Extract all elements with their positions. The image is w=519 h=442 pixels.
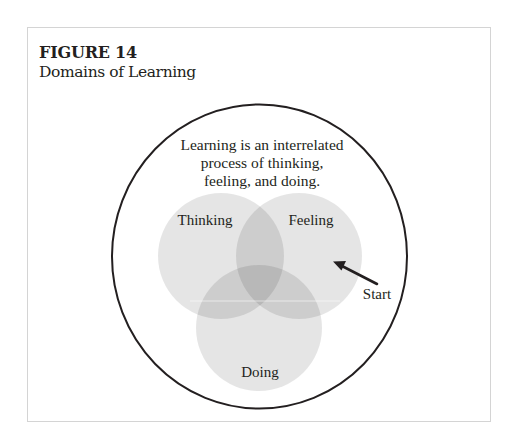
thinking-label: Thinking [178, 212, 233, 228]
caption-line-2: process of thinking, [201, 154, 324, 171]
caption-line-3: feeling, and doing. [204, 172, 320, 189]
caption-line-1: Learning is an interrelated [180, 136, 343, 153]
start-label: Start [363, 286, 392, 302]
feeling-label: Feeling [289, 212, 334, 228]
doing-label: Doing [241, 364, 279, 380]
learning-domains-diagram: Learning is an interrelated process of t… [0, 0, 519, 442]
